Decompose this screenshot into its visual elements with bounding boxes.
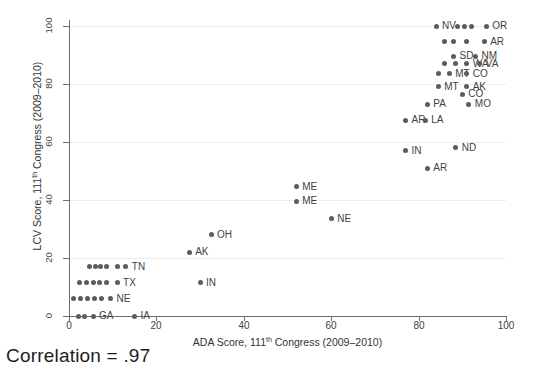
gridline xyxy=(70,142,506,143)
data-point-label: CO xyxy=(473,68,488,79)
data-point xyxy=(187,250,192,255)
data-point-label: OH xyxy=(217,229,232,240)
data-point xyxy=(462,24,467,29)
y-tick-label: 0 xyxy=(44,302,53,330)
data-point-label: TN xyxy=(132,261,145,272)
data-point xyxy=(108,296,113,301)
y-axis-title-pre: LCV Score, 111 xyxy=(31,178,43,251)
y-axis-title-post: Congress (2009–2010) xyxy=(31,62,43,172)
data-point-label: GA xyxy=(99,310,113,321)
data-point xyxy=(93,264,98,269)
scatter-plot-figure: NVORARSDNMWAVAMTCOMTAKCOPAMOARLAINNDARME… xyxy=(0,0,556,377)
x-axis-title-post: Congress (2009–2010) xyxy=(272,336,382,348)
data-point-label: NV xyxy=(442,20,456,31)
data-point xyxy=(78,296,83,301)
data-point-label: SD xyxy=(460,50,474,61)
data-point-label: AK xyxy=(195,246,208,257)
data-point-label: NE xyxy=(337,213,351,224)
y-tick-label: 40 xyxy=(44,186,53,214)
data-point xyxy=(403,118,408,123)
data-point xyxy=(460,92,465,97)
data-point-label: MT xyxy=(444,81,458,92)
data-point xyxy=(294,184,299,189)
data-point-label: TX xyxy=(123,277,136,288)
y-tick-label: 100 xyxy=(44,12,53,40)
data-point xyxy=(442,39,447,44)
data-point xyxy=(209,232,214,237)
data-point-label: LA xyxy=(431,114,443,125)
y-tick-label: 20 xyxy=(44,244,53,272)
data-point xyxy=(455,24,460,29)
y-tick xyxy=(63,142,69,143)
data-point xyxy=(123,264,128,269)
data-point xyxy=(91,314,96,319)
data-point xyxy=(451,54,456,59)
data-point xyxy=(482,39,487,44)
data-point xyxy=(91,280,96,285)
gridline xyxy=(70,200,506,201)
x-tick-label: 80 xyxy=(404,320,434,331)
data-point xyxy=(71,296,76,301)
data-point xyxy=(104,280,109,285)
x-tick-label: 60 xyxy=(316,320,346,331)
y-axis-line xyxy=(69,20,70,316)
data-point-label: PA xyxy=(433,98,446,109)
x-tick-label: 100 xyxy=(491,320,521,331)
data-point xyxy=(104,264,109,269)
y-axis-title: LCV Score, 111th Congress (2009–2010) xyxy=(31,31,43,281)
data-point xyxy=(76,314,81,319)
data-point xyxy=(85,296,90,301)
gridline xyxy=(70,258,506,259)
y-tick-label: 60 xyxy=(44,128,53,156)
data-point xyxy=(329,216,334,221)
data-point xyxy=(84,280,89,285)
data-point-label: MO xyxy=(475,98,491,109)
data-point xyxy=(436,71,441,76)
data-point-label: ME xyxy=(302,195,317,206)
data-point xyxy=(442,61,447,66)
x-tick-label: 0 xyxy=(54,320,84,331)
data-point-label: ND xyxy=(462,142,476,153)
data-point xyxy=(469,24,474,29)
plot-area: NVORARSDNMWAVAMTCOMTAKCOPAMOARLAINNDARME… xyxy=(0,0,556,377)
correlation-annotation: Correlation = .97 xyxy=(6,345,150,367)
y-tick xyxy=(63,26,69,27)
data-point xyxy=(97,280,102,285)
data-point xyxy=(425,102,430,107)
data-point xyxy=(115,280,120,285)
data-point xyxy=(466,102,471,107)
data-point-label: IN xyxy=(206,277,216,288)
gridline xyxy=(70,26,506,27)
y-tick xyxy=(63,200,69,201)
x-tick-label: 40 xyxy=(229,320,259,331)
y-tick xyxy=(63,258,69,259)
data-point-label: OR xyxy=(492,20,507,31)
x-axis-title-pre: ADA Score, 111 xyxy=(193,336,266,348)
data-point-label: AR xyxy=(490,36,504,47)
data-point xyxy=(132,314,137,319)
data-point xyxy=(484,24,489,29)
data-point xyxy=(453,145,458,150)
data-point xyxy=(447,71,452,76)
data-point xyxy=(294,199,299,204)
data-point xyxy=(198,280,203,285)
data-point xyxy=(77,280,82,285)
data-point xyxy=(453,61,458,66)
data-point xyxy=(464,61,469,66)
data-point xyxy=(403,148,408,153)
data-point xyxy=(425,166,430,171)
data-point xyxy=(451,39,456,44)
data-point xyxy=(87,264,92,269)
data-point-label: AR xyxy=(433,162,447,173)
y-tick xyxy=(63,84,69,85)
x-tick-label: 20 xyxy=(141,320,171,331)
data-point xyxy=(434,24,439,29)
data-point xyxy=(423,118,428,123)
y-tick-label: 80 xyxy=(44,70,53,98)
data-point xyxy=(98,264,103,269)
data-point xyxy=(82,314,87,319)
data-point xyxy=(92,296,97,301)
data-point xyxy=(436,84,441,89)
y-tick-label-wrap: 100 xyxy=(34,21,62,31)
y-axis-title-superscript: th xyxy=(31,172,38,178)
